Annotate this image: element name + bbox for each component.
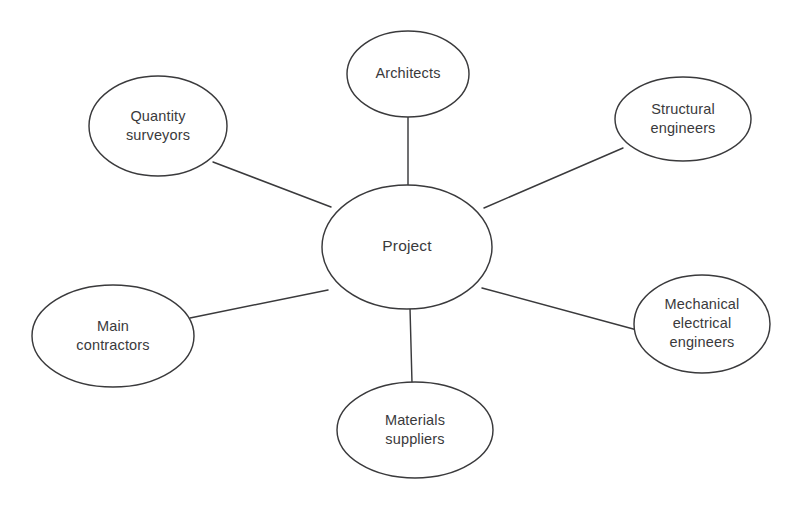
node-label-mechanical-electrical-engineers: Mechanicalelectricalengineers [665, 296, 740, 350]
node-label-line: engineers [650, 119, 715, 135]
node-label-line: electrical [673, 315, 732, 331]
node-label-project: Project [382, 237, 432, 254]
connector-line-mechanical-electrical-engineers [482, 288, 637, 330]
connector-line-quantity-surveyors [213, 162, 331, 207]
node-materials-suppliers[interactable]: Materialssuppliers [337, 382, 493, 478]
node-label-line: surveyors [126, 126, 190, 142]
node-label-line: contractors [76, 336, 149, 352]
node-label-line: Main [97, 317, 129, 333]
node-label-line: Architects [375, 65, 440, 81]
connector-line-materials-suppliers [410, 308, 412, 383]
nodes-layer: ArchitectsQuantitysurveyorsStructuraleng… [32, 31, 770, 478]
node-label-line: suppliers [385, 430, 444, 446]
node-label-line: Materials [385, 411, 445, 427]
node-project[interactable]: Project [322, 185, 492, 309]
node-architects[interactable]: Architects [347, 31, 469, 117]
diagram-canvas: ArchitectsQuantitysurveyorsStructuraleng… [0, 0, 799, 509]
node-quantity-surveyors[interactable]: Quantitysurveyors [89, 76, 227, 176]
connector-line-structural-engineers [484, 148, 623, 208]
node-label-line: engineers [669, 334, 734, 350]
node-label-line: Project [382, 237, 432, 254]
node-main-contractors[interactable]: Maincontractors [32, 285, 194, 387]
node-label-line: Quantity [130, 107, 186, 123]
node-mechanical-electrical-engineers[interactable]: Mechanicalelectricalengineers [634, 275, 770, 373]
node-structural-engineers[interactable]: Structuralengineers [615, 77, 751, 161]
node-label-line: Mechanical [665, 296, 740, 312]
node-label-line: Structural [651, 100, 715, 116]
stakeholder-hub-diagram: ArchitectsQuantitysurveyorsStructuraleng… [0, 0, 799, 509]
node-label-architects: Architects [375, 65, 440, 81]
connector-line-main-contractors [190, 290, 328, 318]
